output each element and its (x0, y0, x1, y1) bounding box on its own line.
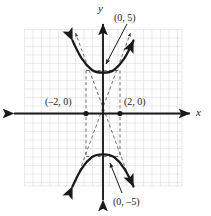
y-axis-label: y (98, 3, 103, 14)
axis-lines (14, 24, 190, 200)
leader-to-lower-vertex (110, 163, 122, 193)
point-minus2-0 (83, 111, 88, 116)
corner-right-label: (2, 0) (124, 97, 146, 107)
hyperbola-figure: y x (0, 5) (0, –5) (–2, 0) (2, 0) (0, 0, 211, 216)
corner-left-label: (–2, 0) (45, 97, 72, 107)
vertex-top-label: (0, 5) (114, 13, 136, 23)
vertex-bottom-label: (0, –5) (113, 197, 140, 207)
plot-canvas (0, 0, 211, 216)
x-axis-label: x (196, 107, 201, 118)
point-2-0 (117, 111, 122, 116)
